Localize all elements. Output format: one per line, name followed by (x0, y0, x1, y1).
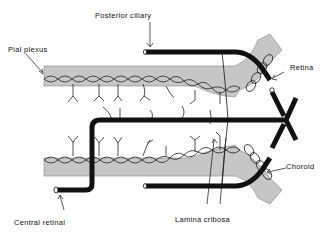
retinal-branch-down (272, 124, 284, 148)
retinal-branch-up (272, 92, 284, 116)
label-central-retinal: Central retinal (14, 218, 65, 227)
label-choroid: Choroid (286, 162, 314, 171)
label-lamina-cribosa: Lamina cribosa (175, 215, 230, 224)
label-posterior-ciliary: Posterior ciliary (95, 11, 151, 20)
label-pial-plexus: Pial plexus (8, 45, 48, 54)
optic-nerve-vasculature-diagram (0, 0, 327, 234)
lower-pial-band (44, 145, 282, 204)
label-retina: Retina (290, 63, 313, 72)
